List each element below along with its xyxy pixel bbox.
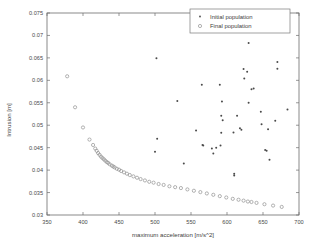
y-tick-label: 0.04 — [32, 167, 43, 173]
y-tick-label: 0.035 — [29, 190, 43, 196]
data-point-initial — [215, 147, 217, 149]
legend-marker-initial-icon — [199, 16, 201, 18]
data-point-final — [143, 179, 146, 182]
data-point-initial — [276, 61, 278, 63]
data-point-final — [88, 138, 91, 141]
data-point-final — [152, 181, 155, 184]
data-point-final — [174, 186, 177, 189]
y-tick-label: 0.045 — [29, 145, 43, 151]
y-tick-label: 0.075 — [29, 10, 43, 16]
y-axis-label: Intrusion [m] — [5, 103, 12, 137]
data-point-final — [81, 126, 84, 129]
data-point-final — [250, 200, 253, 203]
data-point-initial — [240, 129, 242, 131]
data-point-final — [199, 191, 202, 194]
data-point-initial — [233, 174, 235, 176]
x-tick-label: 450 — [114, 219, 123, 225]
data-point-initial — [201, 84, 203, 86]
data-point-initial — [195, 130, 197, 132]
y-tick-label: 0.06 — [32, 77, 43, 83]
data-point-final — [280, 205, 283, 208]
data-point-final — [128, 173, 131, 176]
data-point-initial — [212, 153, 214, 155]
x-tick-label: 700 — [294, 219, 303, 225]
data-point-final — [179, 186, 182, 189]
data-point-initial — [274, 120, 276, 122]
x-tick-label: 550 — [186, 219, 195, 225]
data-point-final — [205, 192, 208, 195]
data-point-final — [168, 185, 171, 188]
data-point-initial — [219, 84, 221, 86]
data-point-final — [157, 182, 160, 185]
x-tick-label: 400 — [78, 219, 87, 225]
series-final-population — [66, 75, 284, 209]
data-point-final — [135, 176, 138, 179]
plot-axes-box — [47, 13, 299, 215]
data-point-final — [255, 201, 258, 204]
y-tick-label: 0.055 — [29, 100, 43, 106]
data-point-initial — [236, 115, 238, 117]
data-point-initial — [243, 78, 245, 80]
data-point-initial — [202, 144, 204, 146]
data-point-initial — [183, 162, 185, 164]
y-tick-label: 0.05 — [32, 122, 43, 128]
data-point-final — [73, 106, 76, 109]
y-tick-label: 0.03 — [32, 212, 43, 218]
legend: Initial population Final population — [190, 9, 290, 33]
data-point-final — [225, 196, 228, 199]
x-axis-ticks: 350400450500550600650700 — [42, 13, 303, 225]
data-point-initial — [250, 88, 252, 90]
data-point-initial — [156, 138, 158, 140]
data-point-final — [139, 177, 142, 180]
data-point-initial — [155, 57, 157, 59]
x-tick-label: 650 — [258, 219, 267, 225]
data-point-initial — [211, 148, 213, 150]
y-tick-label: 0.065 — [29, 55, 43, 61]
data-point-initial — [232, 131, 234, 133]
data-point-final — [192, 189, 195, 192]
data-point-final — [237, 198, 240, 201]
scatter-chart-figure: 350400450500550600650700 0.030.0350.040.… — [0, 0, 313, 245]
data-point-initial — [261, 123, 263, 125]
data-point-initial — [260, 111, 262, 113]
data-point-final — [218, 195, 221, 198]
data-point-initial — [221, 100, 223, 102]
data-point-initial — [220, 115, 222, 117]
x-tick-label: 600 — [222, 219, 231, 225]
data-point-initial — [248, 42, 250, 44]
data-point-final — [66, 75, 69, 78]
data-point-initial — [246, 71, 248, 73]
legend-label-final: Final population — [210, 23, 252, 29]
data-point-initial — [220, 144, 222, 146]
data-point-initial — [233, 173, 235, 175]
data-point-final — [242, 199, 245, 202]
data-point-final — [162, 183, 165, 186]
data-point-initial — [266, 150, 268, 152]
legend-background — [190, 9, 290, 33]
data-point-initial — [220, 132, 222, 134]
data-point-final — [148, 180, 151, 183]
data-point-initial — [176, 100, 178, 102]
series-initial-population — [154, 42, 288, 176]
data-point-final — [231, 197, 234, 200]
data-point-final — [263, 203, 266, 206]
data-point-initial — [268, 159, 270, 161]
plot-frame — [47, 13, 299, 215]
data-point-final — [246, 200, 249, 203]
x-tick-label: 500 — [150, 219, 159, 225]
x-axis-label: maximum acceleration [m/s^2] — [132, 231, 214, 238]
y-tick-label: 0.07 — [32, 32, 43, 38]
plot-canvas: 350400450500550600650700 0.030.0350.040.… — [0, 0, 313, 245]
data-point-initial — [243, 68, 245, 70]
data-point-initial — [248, 102, 250, 104]
legend-label-initial: Initial population — [210, 14, 253, 20]
x-tick-label: 350 — [42, 219, 51, 225]
data-point-initial — [286, 109, 288, 111]
data-point-initial — [267, 128, 269, 130]
data-point-initial — [154, 151, 156, 153]
data-point-final — [132, 175, 135, 178]
data-point-final — [271, 204, 274, 207]
data-point-final — [186, 188, 189, 191]
data-point-initial — [253, 87, 255, 89]
data-point-final — [212, 193, 215, 196]
